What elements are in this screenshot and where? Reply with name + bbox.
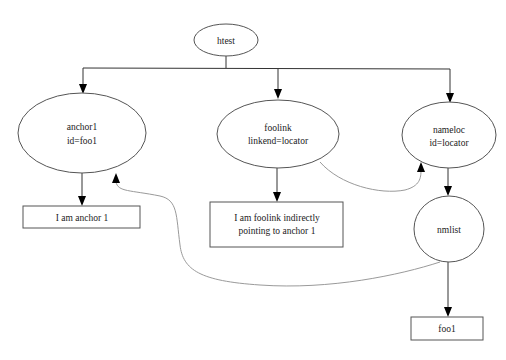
- node-label: anchor1: [67, 122, 98, 132]
- node-nameloc: nameloc id=locator: [402, 102, 496, 168]
- node-foolink-text: I am foolink indirectly pointing to anch…: [210, 202, 343, 247]
- diagram-canvas: htest anchor1 id=foo1 foolink linkend=lo…: [0, 0, 506, 360]
- node-label: id=locator: [429, 138, 469, 148]
- node-label: id=foo1: [67, 136, 97, 146]
- arrowhead-icon: [112, 173, 120, 183]
- node-label: I am foolink indirectly: [234, 213, 320, 223]
- node-foo1: foo1: [411, 317, 483, 340]
- node-label: pointing to anchor 1: [239, 226, 316, 236]
- arrowhead-icon: [78, 196, 86, 206]
- node-label: foo1: [438, 324, 456, 334]
- arrowhead-icon: [444, 307, 452, 317]
- arrowhead-icon: [79, 84, 87, 94]
- node-label: I am anchor 1: [56, 213, 109, 223]
- node-anchor1: anchor1 id=foo1: [18, 93, 146, 173]
- edge-foolink-nameloc-ref: [320, 162, 421, 191]
- node-label: htest: [217, 36, 235, 46]
- node-htest: htest: [194, 24, 258, 56]
- tree-edges: [78, 56, 454, 317]
- node-label: foolink: [264, 123, 292, 133]
- edge-htest-bus: [83, 68, 450, 69]
- node-label: nameloc: [433, 125, 465, 135]
- arrowhead-icon: [273, 192, 281, 202]
- node-anchor-text: I am anchor 1: [23, 206, 140, 228]
- node-foolink: foolink linkend=locator: [217, 100, 339, 168]
- arrowhead-icon: [274, 89, 282, 99]
- node-nmlist: nmlist: [414, 196, 484, 262]
- node-label: linkend=locator: [248, 136, 309, 146]
- arrowhead-icon: [446, 93, 454, 103]
- node-label: nmlist: [437, 225, 461, 235]
- arrowhead-icon: [444, 186, 452, 196]
- arrowhead-icon: [417, 162, 425, 172]
